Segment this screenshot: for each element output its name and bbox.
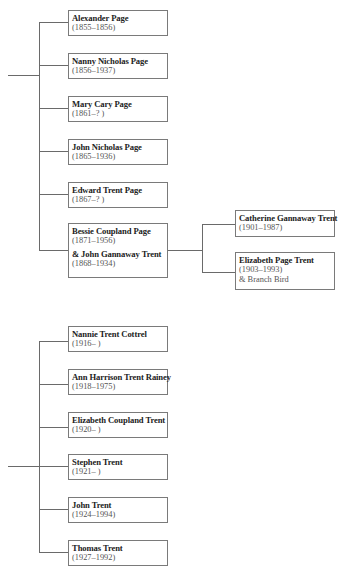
person-dates: (1924–1994) (72, 510, 164, 520)
person-dates: (1921– ) (72, 467, 164, 477)
sibling-bracket-top (39, 22, 40, 250)
person-box-elizabeth-page-trent[interactable]: Elizabeth Page Trent (1903–1993) & Branc… (235, 252, 335, 290)
child-connector (39, 509, 68, 510)
child-connector (39, 151, 68, 152)
person-name: Edward Trent Page (72, 185, 164, 195)
child-connector (39, 341, 68, 342)
grandchild-connector (202, 272, 235, 273)
person-dates: (1865–1936) (72, 152, 164, 162)
child-connector (39, 194, 68, 195)
person-name: Thomas Trent (72, 543, 164, 553)
person-dates: (1861–? ) (72, 109, 164, 119)
person-dates: (1918–1975) (72, 382, 164, 392)
person-box-catherine-gannaway-trent[interactable]: Catherine Gannaway Trent (1901–1987) (235, 210, 335, 237)
spouse-name: & Branch Bird (239, 275, 331, 284)
person-box-alexander-page[interactable]: Alexander Page (1855–1856) (68, 10, 168, 36)
child-connector (39, 384, 68, 385)
person-box-edward-trent-page[interactable]: Edward Trent Page (1867–? ) (68, 182, 168, 208)
person-box-nanny-nicholas-page[interactable]: Nanny Nicholas Page (1856–1937) (68, 53, 168, 79)
person-dates: (1856–1937) (72, 66, 164, 76)
person-dates: (1855–1856) (72, 23, 164, 33)
person-dates: (1901–1987) (239, 223, 331, 233)
person-name: Nanny Nicholas Page (72, 56, 164, 66)
person-dates: (1927–1992) (72, 553, 164, 563)
spouse-dates: (1868–1934) (72, 259, 164, 269)
person-dates: (1903–1993) (239, 265, 331, 275)
person-dates: (1867–? ) (72, 195, 164, 205)
person-name: Bessie Coupland Page (72, 226, 164, 236)
person-box-thomas-trent[interactable]: Thomas Trent (1927–1992) (68, 540, 168, 566)
child-connector (39, 466, 68, 467)
person-name: John Nicholas Page (72, 142, 164, 152)
child-connector (39, 22, 68, 23)
person-dates: (1916– ) (72, 339, 164, 349)
person-name: Nannie Trent Cottrel (72, 329, 164, 339)
grandchild-connector (202, 224, 235, 225)
person-name: Elizabeth Page Trent (239, 255, 331, 265)
person-name: Elizabeth Coupland Trent (72, 415, 164, 425)
child-connector (39, 250, 68, 251)
child-connector (39, 108, 68, 109)
child-connector (39, 552, 68, 553)
person-dates: (1920– ) (72, 425, 164, 435)
person-box-mary-cary-page[interactable]: Mary Cary Page (1861–? ) (68, 96, 168, 122)
child-connector (39, 65, 68, 66)
person-box-ann-harrison-trent-rainey[interactable]: Ann Harrison Trent Rainey (1918–1975) (68, 369, 168, 395)
spouse-name: & John Gannaway Trent (72, 249, 164, 259)
person-box-bessie-coupland-page[interactable]: Bessie Coupland Page (1871–1956) & John … (68, 223, 168, 278)
person-name: Alexander Page (72, 13, 164, 23)
person-name: Ann Harrison Trent Rainey (72, 372, 164, 382)
couple-connector (168, 250, 202, 251)
person-name: Catherine Gannaway Trent (239, 213, 331, 223)
person-name: Mary Cary Page (72, 99, 164, 109)
sibling-bracket-bottom (39, 341, 40, 553)
person-box-nannie-trent-cottrel[interactable]: Nannie Trent Cottrel (1916– ) (68, 326, 168, 352)
person-box-elizabeth-coupland-trent[interactable]: Elizabeth Coupland Trent (1920– ) (68, 412, 168, 438)
person-box-john-nicholas-page[interactable]: John Nicholas Page (1865–1936) (68, 139, 168, 165)
child-connector (39, 427, 68, 428)
person-name: John Trent (72, 500, 164, 510)
parent-connector-top (8, 75, 39, 76)
person-name: Stephen Trent (72, 457, 164, 467)
parent-connector-bottom (8, 466, 39, 467)
person-box-john-trent[interactable]: John Trent (1924–1994) (68, 497, 168, 523)
person-dates: (1871–1956) (72, 236, 164, 246)
person-box-stephen-trent[interactable]: Stephen Trent (1921– ) (68, 454, 168, 480)
sibling-bracket-grandchildren (202, 224, 203, 272)
